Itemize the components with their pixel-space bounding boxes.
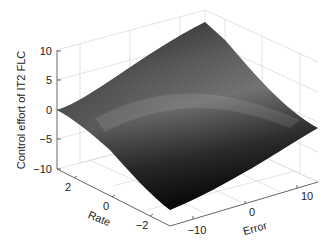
surface: [57, 22, 318, 210]
z-axis-label: Control effort of IT2 FLC: [15, 51, 27, 169]
z-tick-neg10: −10: [33, 163, 52, 175]
z-tick-neg5: −5: [39, 133, 52, 145]
error-tick-0: 0: [249, 206, 255, 218]
rate-tick-0: 0: [103, 200, 109, 212]
rate-tick-neg2: −2: [136, 219, 149, 231]
z-tick-labels: 10 5 0 −5 −10: [33, 45, 52, 175]
z-tick-10: 10: [40, 45, 52, 57]
surface-chart: 10 5 0 −5 −10 2 0 −2 −10 0 10 Control ef…: [0, 0, 332, 243]
z-tick-0: 0: [46, 104, 52, 116]
z-tick-5: 5: [46, 74, 52, 86]
error-tick-neg10: −10: [188, 224, 207, 236]
error-axis-label: Error: [241, 219, 268, 237]
chart-svg: 10 5 0 −5 −10 2 0 −2 −10 0 10 Control ef…: [0, 0, 332, 243]
rate-tick-2: 2: [65, 181, 71, 193]
error-tick-10: 10: [301, 190, 313, 202]
